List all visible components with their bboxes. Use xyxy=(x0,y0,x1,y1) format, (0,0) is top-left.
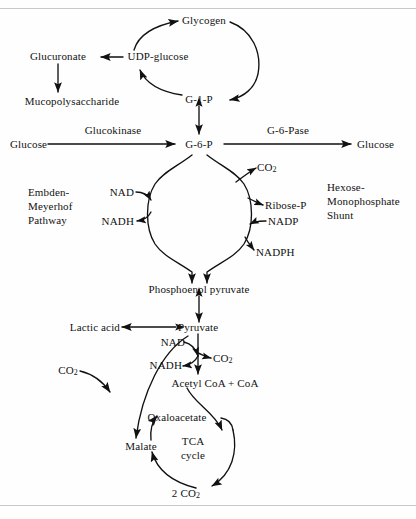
edge-co2-into-carboxylation xyxy=(80,371,110,392)
edge-nadp-into-hmp xyxy=(250,221,266,224)
node-g6p: G-6-P xyxy=(185,138,213,152)
edge-hmp-to-co2 xyxy=(236,168,256,182)
label-embden-meyerhof-pathway: Embden- Meyerhof Pathway xyxy=(28,185,73,227)
node-malate: Malate xyxy=(125,440,156,454)
node-ribose-p: Ribose-P xyxy=(265,199,307,213)
node-glucose-left: Glucose xyxy=(10,138,47,152)
node-acetyl-coa: Acetyl CoA + CoA xyxy=(171,377,258,391)
edge-g1p-to-udpglucose xyxy=(140,70,182,95)
node-lactic-acid: Lactic acid xyxy=(70,321,120,335)
edge-g6p-to-pep-emp xyxy=(148,155,193,283)
node-nadph: NADPH xyxy=(256,246,295,260)
node-nad-pdh: NAD xyxy=(161,336,185,350)
node-g1p: G-1-P xyxy=(185,93,213,107)
pathway-diagram-page: Glycogen UDP-glucose Glucuronate Mucopol… xyxy=(0,0,416,519)
edge-tca-to-co2 xyxy=(212,430,235,486)
edge-pdh-to-nadh xyxy=(183,356,198,366)
node-co2-carboxylase: CO2 xyxy=(58,364,78,378)
node-mucopolysaccharide: Mucopolysaccharide xyxy=(25,95,119,109)
edge-udpglucose-to-glycogen xyxy=(134,21,178,50)
label-glucokinase: Glucokinase xyxy=(85,124,142,138)
node-co2-tca: 2 CO2 xyxy=(172,487,200,501)
node-phosphoenol-pyruvate: Phosphoenol pyruvate xyxy=(148,283,249,297)
node-udp-glucose: UDP-glucose xyxy=(128,50,189,64)
node-co2-pdh: CO2 xyxy=(213,352,233,366)
co2-text: CO xyxy=(257,161,273,173)
co2-text: CO xyxy=(213,352,229,364)
co2-text: 2 CO xyxy=(172,487,196,499)
node-glycogen: Glycogen xyxy=(182,14,226,28)
label-tca-cycle: TCA cycle xyxy=(181,434,205,462)
co2-subscript: 2 xyxy=(74,368,78,377)
node-pyruvate: Pyruvate xyxy=(178,321,218,335)
edge-nad-into-pdh xyxy=(184,342,198,356)
node-co2-hmp: CO2 xyxy=(257,161,277,175)
co2-text: CO xyxy=(58,364,74,376)
label-hexose-monophosphate-shunt: Hexose- Monophosphate Shunt xyxy=(327,180,400,222)
edge-pdh-to-co2 xyxy=(198,353,211,358)
co2-subscript: 2 xyxy=(196,491,200,500)
edge-oxaloacetate-tail xyxy=(221,418,233,430)
node-glucose-right: Glucose xyxy=(357,138,394,152)
edge-g6p-to-pep-hmp xyxy=(207,155,252,283)
node-nadp: NADP xyxy=(268,215,299,229)
label-g6pase: G-6-Pase xyxy=(267,124,309,138)
node-oxaloacetate: Oxaloacetate xyxy=(147,411,206,425)
co2-subscript: 2 xyxy=(273,165,277,174)
edge-emp-to-nadh xyxy=(137,212,151,221)
node-nadh-pdh: NADH xyxy=(150,359,182,373)
node-nadh-emp: NADH xyxy=(102,215,134,229)
node-nad-emp: NAD xyxy=(110,186,134,200)
pathway-arrows xyxy=(0,0,416,519)
edge-hmp-to-nadph xyxy=(245,237,254,250)
node-glucuronate: Glucuronate xyxy=(30,50,86,64)
edge-glycogen-to-g1p xyxy=(230,22,259,100)
co2-subscript: 2 xyxy=(229,356,233,365)
